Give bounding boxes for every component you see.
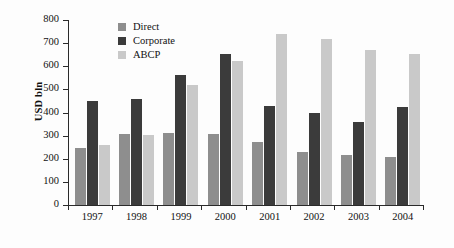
y-axis-tick-label: 600 bbox=[43, 59, 59, 70]
y-axis-tick-label: 100 bbox=[43, 175, 59, 186]
bar bbox=[397, 107, 408, 205]
bar-group bbox=[297, 20, 332, 205]
x-axis-tick bbox=[201, 205, 202, 210]
y-axis-tick-label: 800 bbox=[43, 13, 59, 24]
bar bbox=[385, 157, 396, 205]
x-axis-tick bbox=[68, 205, 69, 210]
bar bbox=[143, 135, 154, 205]
bar-group bbox=[385, 20, 420, 205]
y-axis-tick-label: 500 bbox=[43, 82, 59, 93]
bar-chart: USD bln DirectCorporateABCP 010020030040… bbox=[0, 0, 454, 248]
plot-area: 0100200300400500600700800 19971998199920… bbox=[68, 20, 423, 205]
bar bbox=[252, 142, 263, 205]
bar bbox=[220, 54, 231, 205]
x-axis-label: 2000 bbox=[203, 211, 247, 222]
bar-group bbox=[341, 20, 376, 205]
x-axis-label: 1998 bbox=[115, 211, 159, 222]
bar-group bbox=[75, 20, 110, 205]
x-axis-tick bbox=[379, 205, 380, 210]
x-axis-label: 2002 bbox=[292, 211, 336, 222]
bar bbox=[75, 148, 86, 205]
bar bbox=[87, 101, 98, 205]
x-axis-label: 1999 bbox=[159, 211, 203, 222]
bar bbox=[321, 39, 332, 205]
bar bbox=[309, 113, 320, 205]
bar-group bbox=[208, 20, 243, 205]
y-axis-tick-label: 0 bbox=[54, 198, 59, 209]
y-axis-tick-label: 700 bbox=[43, 36, 59, 47]
bar bbox=[264, 106, 275, 205]
bar-group bbox=[119, 20, 154, 205]
bar bbox=[297, 152, 308, 205]
bar bbox=[119, 134, 130, 205]
x-axis-label: 2004 bbox=[381, 211, 425, 222]
bar bbox=[341, 155, 352, 205]
y-axis-tick-label: 400 bbox=[43, 106, 59, 117]
x-axis-tick bbox=[334, 205, 335, 210]
bar bbox=[187, 85, 198, 205]
bar bbox=[232, 61, 243, 205]
bar bbox=[131, 99, 142, 205]
bar bbox=[175, 75, 186, 205]
x-axis-label: 2001 bbox=[248, 211, 292, 222]
x-axis-label: 1997 bbox=[70, 211, 114, 222]
bar bbox=[163, 133, 174, 205]
bar-group bbox=[163, 20, 198, 205]
bar bbox=[365, 50, 376, 205]
bar bbox=[99, 145, 110, 205]
bar bbox=[353, 122, 364, 205]
x-axis-tick bbox=[290, 205, 291, 210]
x-axis-tick bbox=[157, 205, 158, 210]
bars-layer bbox=[68, 20, 423, 205]
x-axis-label: 2003 bbox=[336, 211, 380, 222]
bar bbox=[276, 34, 287, 205]
bar-group bbox=[252, 20, 287, 205]
x-axis-tick bbox=[246, 205, 247, 210]
y-axis-tick-label: 300 bbox=[43, 129, 59, 140]
x-axis-tick bbox=[423, 205, 424, 210]
y-axis-title: USD bln bbox=[33, 66, 44, 138]
bar bbox=[409, 54, 420, 205]
y-axis-tick-label: 200 bbox=[43, 152, 59, 163]
x-axis-tick bbox=[112, 205, 113, 210]
bar bbox=[208, 134, 219, 205]
